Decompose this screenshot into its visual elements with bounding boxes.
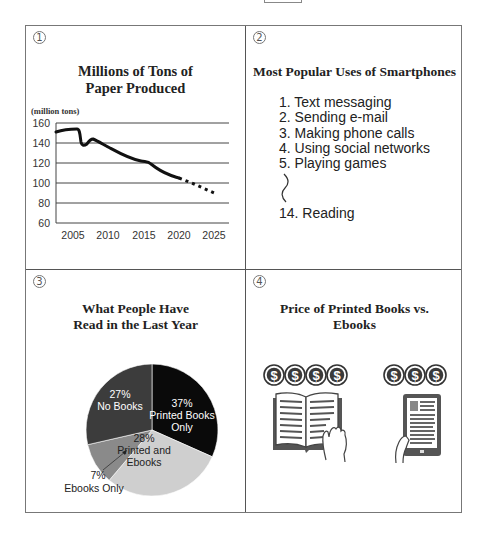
price-illustration: $ [246,362,463,472]
panel-reading-habits: 3 What People Have Read in the Last Year… [26,270,245,513]
panel-number-2: 2 [253,31,266,44]
panel-paper-production: 1 Millions of Tons of Paper Produced (mi… [26,26,245,269]
dollar-coin-icon [405,365,425,385]
dollar-coin-icon [285,365,305,385]
projected-series-line [179,178,214,193]
svg-text:2010: 2010 [96,229,120,241]
svg-text:160: 160 [32,117,50,129]
list-item-last: 14. Reading [279,206,355,221]
actual-series-line [56,129,179,178]
dollar-coin-icon [384,365,404,385]
dollar-coin-icon [306,365,326,385]
price-title: Price of Printed Books vs. Ebooks [246,301,463,333]
panel-number-4: 4 [253,275,266,288]
list-item: 4. Using social networks [279,141,430,156]
x-axis-labels: 2005 2010 2015 2020 2025 [61,229,226,241]
dollar-coin-icon [426,365,446,385]
svg-text:80: 80 [38,197,50,209]
svg-text:27%: 27% [109,388,130,400]
chart-title: Millions of Tons of Paper Produced [26,63,245,97]
panel-number-3: 3 [33,275,46,288]
svg-text:100: 100 [32,177,50,189]
svg-text:No Books: No Books [97,400,143,412]
panel-book-prices: 4 Price of Printed Books vs. Ebooks $ [246,270,463,513]
four-panel-grid: 1 Millions of Tons of Paper Produced (mi… [25,25,462,513]
svg-text:28%: 28% [133,432,154,444]
svg-text:2015: 2015 [132,229,156,241]
list-item: 5. Playing games [279,156,430,171]
panel-number-1: 1 [33,31,46,44]
printed-book-price-icons [264,365,347,385]
line-chart: 160 140 120 100 80 60 2005 2010 2015 202… [26,116,245,261]
svg-text:Ebooks Only: Ebooks Only [64,482,124,494]
list-item: 3. Making phone calls [279,126,430,141]
svg-text:140: 140 [32,137,50,149]
svg-text:60: 60 [38,217,50,229]
panel-smartphone-uses: 2 Most Popular Uses of Smartphones 1. Te… [246,26,463,269]
svg-text:120: 120 [32,157,50,169]
hand-icon [323,427,347,462]
y-unit-label: (million tons) [31,106,79,116]
svg-text:Printed Books: Printed Books [149,409,214,421]
svg-text:7%: 7% [90,469,105,481]
ebook-price-icons [384,365,446,385]
dollar-coin-icon [327,365,347,385]
svg-text:Ebooks: Ebooks [126,456,161,468]
list-item: 1. Text messaging [279,95,430,110]
svg-text:2020: 2020 [167,229,191,241]
pie-title: What People Have Read in the Last Year [26,301,245,333]
y-axis-labels: 160 140 120 100 80 60 [32,117,50,229]
pie-chart: 37% Printed Books Only 28% Printed and E… [26,336,245,506]
list-item: 2. Sending e-mail [279,110,430,125]
uses-list: 1. Text messaging 2. Sending e-mail 3. M… [279,95,430,171]
top-tab-box [264,0,302,3]
svg-text:2025: 2025 [202,229,226,241]
ereader-icon [396,394,441,463]
svg-text:Only: Only [171,421,193,433]
svg-text:37%: 37% [171,397,192,409]
list-title: Most Popular Uses of Smartphones [246,63,463,80]
open-book-icon [273,393,346,462]
wavy-ellipsis-icon [279,173,291,203]
dollar-coin-icon [264,365,284,385]
svg-text:2005: 2005 [61,229,85,241]
